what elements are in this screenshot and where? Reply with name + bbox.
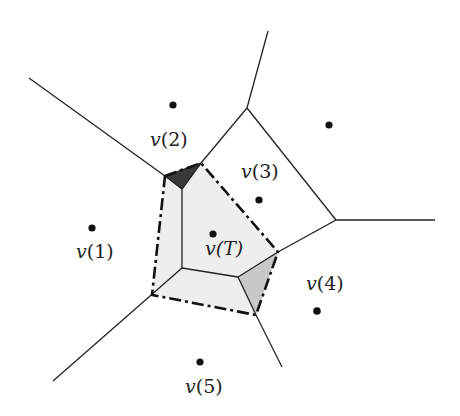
site-v3: [325, 121, 332, 128]
label-vT: v(T): [205, 237, 243, 259]
site-v5: [196, 358, 203, 365]
site-v2: [169, 101, 176, 108]
site-v3-inner: [255, 196, 262, 203]
label-v1: v(1): [76, 240, 114, 262]
label-v3: v(3): [241, 160, 279, 182]
voronoi-diagram: v(1) v(2) v(3) v(4) v(5) v(T): [0, 0, 460, 416]
site-v1: [88, 224, 95, 231]
site-v4: [313, 307, 321, 315]
label-v5: v(5): [185, 375, 223, 397]
label-v4: v(4): [306, 272, 344, 294]
sites: [88, 101, 332, 365]
label-v2: v(2): [150, 128, 188, 150]
